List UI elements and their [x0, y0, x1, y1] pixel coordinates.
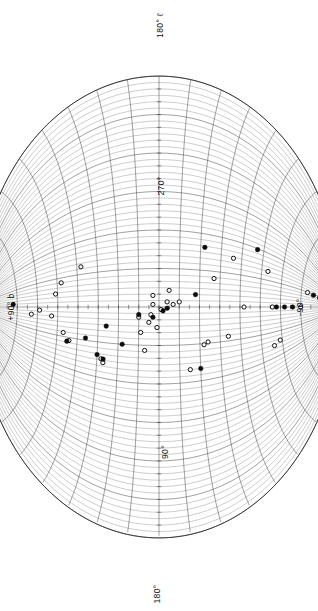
data-point-filled-12	[193, 292, 198, 297]
data-point-open-21	[171, 302, 175, 306]
figure-canvas: 180° ℓ +90° b -90° 180° 270° 90°	[0, 0, 318, 611]
data-point-open-2	[50, 314, 54, 318]
svg-text:-90°: -90°	[295, 298, 305, 315]
data-point-open-31	[272, 343, 276, 347]
data-point-open-6	[79, 265, 83, 269]
data-point-open-28	[231, 256, 235, 260]
data-point-open-32	[278, 338, 282, 342]
label-left: +90° b	[6, 293, 16, 320]
data-point-open-5	[61, 330, 65, 334]
svg-text:90°: 90°	[160, 445, 170, 459]
data-point-open-17	[155, 325, 159, 329]
parallel--10	[179, 80, 190, 532]
data-point-open-26	[212, 276, 216, 280]
data-point-open-22	[177, 300, 181, 304]
data-point-filled-4	[101, 357, 106, 362]
data-point-filled-6	[120, 342, 125, 347]
parallel-10	[127, 80, 138, 532]
data-point-open-30	[266, 269, 270, 273]
label-lower-mid: 90°	[160, 445, 170, 459]
data-point-open-36	[317, 296, 318, 300]
data-point-open-23	[188, 368, 192, 372]
data-point-filled-15	[274, 305, 279, 310]
data-point-filled-16	[282, 305, 287, 310]
data-point-filled-14	[255, 247, 260, 252]
data-point-open-20	[167, 288, 171, 292]
label-right: -90°	[295, 298, 305, 315]
data-point-filled-10	[165, 306, 170, 311]
data-point-filled-5	[104, 324, 109, 329]
data-point-open-29	[242, 305, 246, 309]
data-point-filled-11	[198, 366, 203, 371]
data-point-filled-9	[161, 309, 166, 314]
data-point-open-27	[226, 334, 230, 338]
data-point-open-25	[206, 340, 210, 344]
data-point-open-24	[202, 343, 206, 347]
data-point-filled-3	[95, 352, 100, 357]
data-point-filled-13	[203, 245, 208, 250]
data-point-open-11	[139, 330, 143, 334]
svg-text:180°: 180°	[152, 584, 162, 603]
data-point-open-3	[53, 292, 57, 296]
svg-text:180° ℓ: 180° ℓ	[155, 13, 165, 38]
data-point-open-16	[151, 293, 155, 297]
data-point-open-1	[37, 308, 41, 312]
data-point-filled-1	[64, 339, 69, 344]
label-top: 180° ℓ	[155, 13, 165, 38]
data-point-open-15	[151, 302, 155, 306]
galactic-map-svg: 180° ℓ +90° b -90° 180° 270° 90°	[0, 0, 318, 611]
svg-text:270°: 270°	[156, 176, 166, 195]
parallel-30	[68, 107, 98, 505]
label-bottom: 180°	[152, 584, 162, 603]
data-point-filled-8	[151, 315, 156, 320]
data-point-filled-18	[311, 293, 316, 298]
data-point-open-35	[305, 291, 309, 295]
data-point-open-13	[147, 320, 151, 324]
label-upper-mid: 270°	[156, 176, 166, 195]
data-point-open-12	[143, 348, 147, 352]
svg-text:+90° b: +90° b	[6, 293, 16, 320]
data-point-open-19	[165, 300, 169, 304]
data-point-filled-2	[83, 336, 88, 341]
data-point-filled-7	[136, 312, 141, 317]
data-point-open-0	[29, 312, 33, 316]
data-point-open-33	[270, 305, 274, 309]
data-point-open-4	[59, 281, 63, 285]
